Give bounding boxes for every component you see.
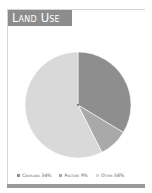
- card-footer-bar: [7, 184, 145, 188]
- legend-item-pasture: Pasture 9%: [59, 173, 87, 178]
- pie-center-dot: [77, 104, 79, 106]
- legend-label: Pasture 9%: [64, 173, 87, 178]
- legend-swatch-pasture: [59, 174, 62, 177]
- chart-title: Land Use: [8, 10, 72, 26]
- pie-chart: [24, 51, 132, 159]
- legend-item-other: Other 58%: [96, 173, 124, 178]
- chart-legend: Cropland 34% Pasture 9% Other 58%: [17, 171, 147, 180]
- legend-swatch-other: [96, 174, 99, 177]
- legend-label: Cropland 34%: [22, 173, 51, 178]
- legend-item-cropland: Cropland 34%: [17, 173, 51, 178]
- legend-swatch-cropland: [17, 174, 20, 177]
- legend-label: Other 58%: [101, 173, 124, 178]
